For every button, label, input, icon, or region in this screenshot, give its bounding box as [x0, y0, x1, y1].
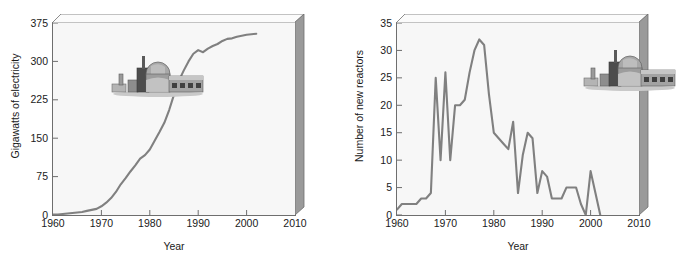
x-tick-label: 1990	[187, 218, 210, 229]
plot-area-right	[396, 14, 648, 216]
x-axis-ticks-left	[101, 210, 246, 215]
x-axis-ticks-right	[445, 210, 590, 215]
x-tick-label: 1960	[41, 218, 64, 229]
plot-area-left	[52, 14, 304, 216]
x-axis-ticklabels-left: 196019701980199020002010	[52, 218, 314, 234]
y-tick-label: 35	[380, 18, 392, 29]
y-axis-title-right: Number of new reactors	[353, 21, 365, 191]
series-line-installed-capacity	[53, 34, 256, 215]
panel-installed-capacity: 075150225300375	[0, 0, 340, 265]
x-axis-title-left: Year	[52, 240, 296, 252]
data-line-left	[53, 23, 295, 215]
x-tick-label: 1970	[434, 218, 457, 229]
x-tick-label: 2000	[235, 218, 258, 229]
y-tick-label: 30	[380, 45, 392, 56]
x-axis-title-right: Year	[396, 240, 640, 252]
plot-frame-3d-left	[52, 14, 304, 216]
y-axis-title-left: Gigawatts of electricity	[9, 21, 21, 191]
y-tick-label: 5	[386, 182, 392, 193]
y-tick-label: 10	[380, 155, 392, 166]
frame-bevel-right-left	[295, 14, 305, 216]
y-axis-ticklabels-left: 075150225300375	[0, 14, 48, 216]
y-tick-label: 300	[30, 56, 48, 67]
x-tick-label: 1960	[385, 218, 408, 229]
plot-frame-3d-right	[396, 14, 648, 216]
x-tick-label: 2010	[627, 218, 650, 229]
x-tick-label: 2000	[579, 218, 602, 229]
y-tick-label: 20	[380, 100, 392, 111]
y-tick-label: 375	[30, 18, 48, 29]
frame-bevel-right-right	[639, 14, 649, 216]
x-tick-label: 1980	[138, 218, 161, 229]
two-panel-line-chart-figure: 075150225300375	[0, 0, 680, 265]
x-tick-label: 1970	[90, 218, 113, 229]
series-line-new-reactors	[397, 39, 600, 215]
y-tick-label: 15	[380, 127, 392, 138]
y-tick-label: 25	[380, 72, 392, 83]
x-tick-label: 2010	[283, 218, 306, 229]
y-tick-label: 150	[30, 133, 48, 144]
x-tick-label: 1990	[531, 218, 554, 229]
y-axis-ticklabels-right: 05101520253035	[344, 14, 392, 216]
data-line-right	[397, 23, 639, 215]
y-tick-label: 75	[36, 171, 48, 182]
x-tick-label: 1980	[482, 218, 505, 229]
panel-new-reactors: 05101520253035	[340, 0, 680, 265]
y-axis-ticks-left	[53, 23, 58, 215]
y-tick-label: 225	[30, 94, 48, 105]
x-axis-ticklabels-right: 196019701980199020002010	[396, 218, 658, 234]
y-axis-ticks-right	[397, 23, 402, 215]
